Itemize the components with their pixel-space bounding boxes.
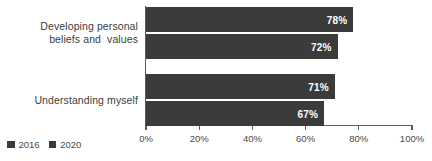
bar-value-label: 67% [298,108,319,119]
legend-label: 2020 [60,139,81,150]
legend-item-2020[interactable]: 2020 [49,139,82,150]
horizontal-bar-chart: Developing personal beliefs and values U… [0,0,432,161]
x-tick-label-5: 100% [400,133,424,144]
x-tick-label-1: 20% [190,133,209,144]
x-tick-label-2: 40% [243,133,262,144]
bar-row[interactable]: 71% [146,74,335,99]
x-tick-label-3: 60% [296,133,315,144]
bar-row[interactable]: 67% [146,101,324,126]
legend-swatch-icon [49,141,57,149]
x-tick-5 [411,125,412,130]
legend-swatch-icon [7,141,15,149]
bar-value-label: 72% [311,41,332,52]
bar-row[interactable]: 72% [146,34,338,59]
bar-value-label: 78% [327,14,348,25]
x-tick-4 [358,125,359,130]
legend-item-2016[interactable]: 2016 [7,139,40,150]
x-tick-label-4: 80% [349,133,368,144]
plot-area: 0% 20% 40% 60% 80% 100% 78% 72% 71% 67% [146,6,412,125]
category-label-developing-personal-beliefs-and-values: Developing personal beliefs and values [2,20,138,46]
category-label-understanding-myself: Understanding myself [2,94,138,107]
bar-row[interactable]: 78% [146,7,353,32]
bar-value-label: 71% [308,81,329,92]
category-axis-labels: Developing personal beliefs and values U… [0,0,142,125]
legend-label: 2016 [19,139,40,150]
legend: 2016 2020 [7,139,81,150]
x-tick-label-0: 0% [139,133,153,144]
